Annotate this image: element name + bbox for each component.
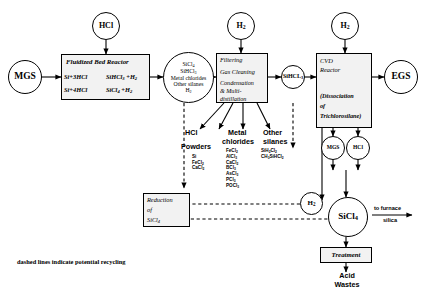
- other-silanes-list: SiH2Cl2CH3SiHCl2: [261, 148, 284, 160]
- node-mixed-gas-stream: SiCl4 SiHCl3 Metal chlorides Other silan…: [163, 52, 214, 103]
- acid-wastes-line-2: Wastes: [330, 281, 364, 290]
- metal-chlorides-label-2: chlorides: [222, 137, 254, 146]
- cvd-line-3: (Dissociation: [320, 92, 354, 99]
- cvd-line-4: of: [320, 102, 325, 109]
- reduction-of-sicl4-box: Reduction of SiCl4: [143, 193, 190, 227]
- node-mgs-input: MGS: [8, 60, 42, 94]
- filtering-line-5: distillation: [220, 96, 246, 102]
- cvd-line-1: CVD: [320, 57, 333, 64]
- reactor-equation-1-right: SiHCl3 +H2: [106, 73, 137, 81]
- powders-list: SiFeCl2CaCl2: [192, 154, 204, 171]
- node-sihcl3: SiHCL3: [281, 65, 305, 89]
- eq2-tail-sub: 2: [130, 89, 132, 94]
- reduction-line-2: of: [147, 206, 152, 213]
- filtering-line-1: Filtering: [220, 56, 242, 63]
- mgs-input-label: MGS: [14, 72, 36, 82]
- treatment-box: Treatment: [320, 247, 372, 263]
- node-h2-cvd-input: H2: [331, 12, 359, 40]
- mix-line-1: SiCl4: [164, 61, 213, 68]
- h2-recycle-label: H2: [308, 200, 316, 207]
- process-flow-diagram: MGS HCl Fluidized Bed Reactor Si+3HCl Si…: [0, 0, 430, 295]
- node-hcl-input: HCl: [92, 12, 120, 40]
- node-h2-recycle: H2: [300, 192, 323, 215]
- eq1-tail-sub: 2: [135, 76, 137, 81]
- eq1-species: SiHCl: [106, 73, 122, 80]
- node-sicl4-output: SiCl4: [328, 197, 368, 237]
- h2-filter-label: H2: [236, 22, 245, 30]
- egs-label: EGS: [391, 72, 410, 82]
- hcl-input-label: HCl: [99, 22, 113, 30]
- acid-wastes-label: Acid Wastes: [330, 272, 364, 290]
- reactor-equation-2-right: SiCl4 +H2: [106, 86, 132, 94]
- footnote: dashed lines indicate potential recyclin…: [17, 258, 126, 265]
- byproduct-hcl-label: HCl: [185, 128, 197, 137]
- mgs-recovered-label: MGS: [327, 145, 340, 151]
- node-egs-output: EGS: [384, 60, 418, 94]
- furnace-label-line-1: to furnace: [374, 205, 401, 211]
- other-silanes-label-1: Other: [263, 128, 282, 137]
- furnace-label-line-2: silica: [383, 217, 397, 223]
- metal-chlorides-list: FeCl2AlCl3CaCl2BCl3AsCl3PCl3POCl3: [226, 148, 239, 188]
- cvd-line-2: Reactor: [320, 66, 340, 73]
- other-silanes-label-2: silanes: [263, 137, 287, 146]
- filtering-line-2: Gas Cleaning: [220, 68, 255, 75]
- metal-chlorides-label-1: Metal: [228, 128, 246, 137]
- mix-line-2: SiHCl3: [164, 68, 213, 75]
- eq1-tail: +H: [125, 73, 135, 80]
- formula-item: CH3SiHCl2: [261, 154, 284, 160]
- mix-line-5: H2: [164, 87, 213, 94]
- formula-item: AsCl3: [226, 171, 239, 177]
- byproduct-powders-label: Powders: [181, 142, 211, 151]
- cvd-line-5: Trichlorosilane): [320, 112, 361, 119]
- filtering-gas-cleaning-box: Filtering Gas Cleaning Condensation & Mu…: [216, 53, 268, 103]
- formula-item: FeCl2: [226, 148, 239, 154]
- filtering-line-3: Condensation: [220, 80, 254, 86]
- hcl-recovered-label: HCl: [353, 145, 363, 151]
- eq2-species: SiCl: [106, 86, 117, 93]
- node-hcl-recovered: HCl: [346, 136, 370, 160]
- cvd-reactor-box: CVD Reactor (Dissociation of Trichlorosi…: [316, 53, 372, 128]
- h2-cvd-label: H2: [340, 22, 349, 30]
- filtering-line-4: & Multi-: [220, 88, 242, 94]
- reactor-equation-1-left: Si+3HCl: [64, 73, 87, 80]
- formula-item: CaCl2: [192, 165, 204, 171]
- formula-item: POCl3: [226, 183, 239, 189]
- sicl4-output-label: SiCl4: [338, 212, 358, 222]
- node-mgs-recovered: MGS: [321, 136, 345, 160]
- treatment-label: Treatment: [321, 251, 371, 258]
- sihcl3-label: SiHCL3: [283, 73, 303, 80]
- reactor-title: Fluidized Bed Reactor: [66, 58, 129, 65]
- fluidized-bed-reactor-box: Fluidized Bed Reactor Si+3HCl SiHCl3 +H2…: [61, 54, 150, 100]
- node-h2-filtering-input: H2: [227, 12, 255, 40]
- eq2-tail: +H: [120, 86, 130, 93]
- reactor-equation-2-left: Si+4HCl: [64, 86, 87, 93]
- reduction-line-1: Reduction: [147, 196, 173, 203]
- reduction-line-3: SiCl4: [147, 216, 160, 224]
